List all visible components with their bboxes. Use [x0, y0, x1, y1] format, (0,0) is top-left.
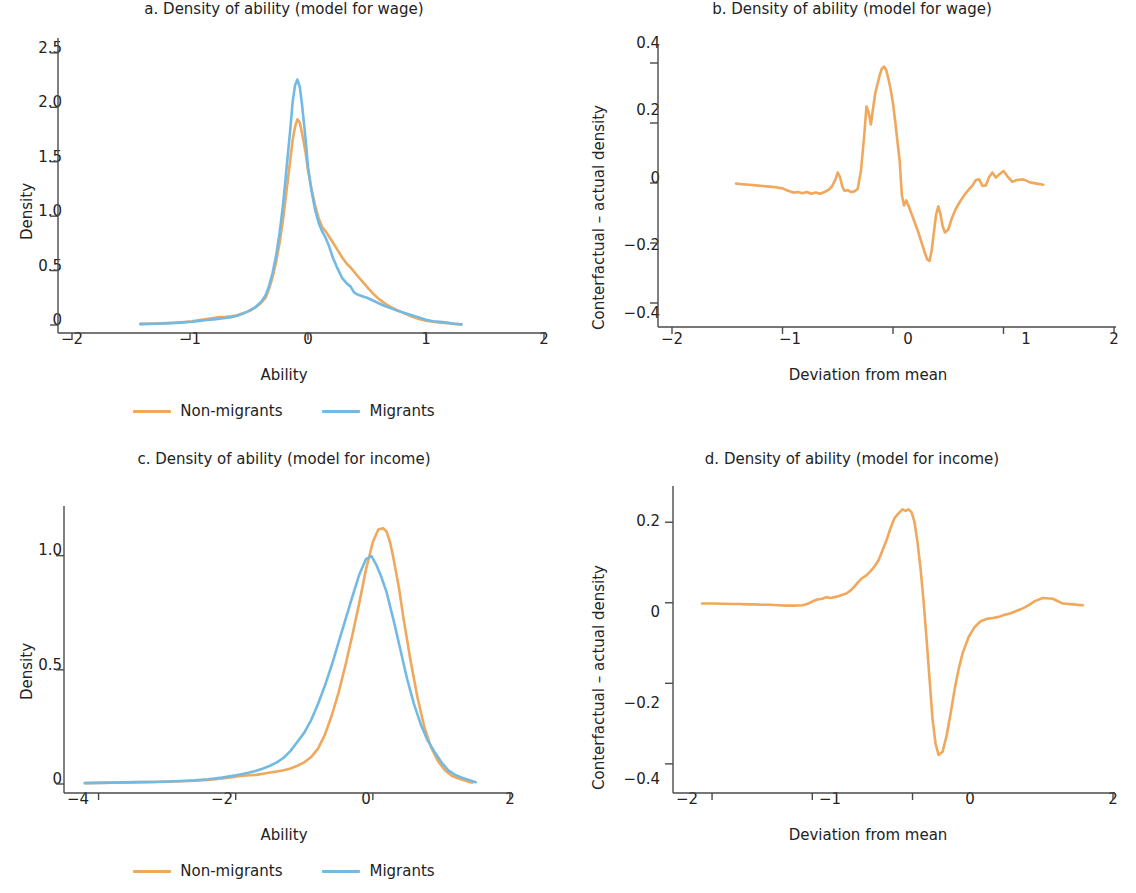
panel-b-x-axis-title: Deviation from mean — [608, 366, 1128, 384]
legend-swatch-non-migrants — [133, 410, 171, 413]
legend-item-migrants[interactable]: Migrants — [322, 402, 434, 420]
figure-container: a. Density of ability (model for wage) D… — [0, 0, 1136, 893]
legend-item-non-migrants[interactable]: Non-migrants — [133, 862, 282, 880]
legend-swatch-migrants — [322, 410, 360, 413]
a-series-0 — [140, 119, 461, 324]
d-series-0 — [702, 509, 1083, 755]
legend-item-migrants[interactable]: Migrants — [322, 862, 434, 880]
legend-label-non-migrants: Non-migrants — [180, 862, 282, 880]
panel-c-legend: Non-migrants Migrants — [0, 862, 568, 880]
panel-a: a. Density of ability (model for wage) D… — [0, 0, 568, 440]
c-series-1 — [85, 556, 476, 783]
panel-c-x-axis-title: Ability — [0, 826, 568, 844]
panel-c: c. Density of ability (model for income)… — [0, 450, 568, 893]
panel-d: d. Density of ability (model for income)… — [568, 450, 1136, 893]
c-series-0 — [85, 528, 472, 783]
legend-label-migrants: Migrants — [369, 862, 434, 880]
panel-b-plot — [568, 0, 1136, 360]
panel-c-plot — [0, 450, 568, 820]
panel-d-plot — [568, 450, 1136, 820]
panel-a-plot — [0, 0, 568, 360]
panel-d-x-axis-title: Deviation from mean — [608, 826, 1128, 844]
panel-a-legend: Non-migrants Migrants — [0, 402, 568, 420]
a-series-1 — [140, 80, 461, 325]
legend-item-non-migrants[interactable]: Non-migrants — [133, 402, 282, 420]
legend-swatch-migrants — [322, 870, 360, 873]
panel-a-x-axis-title: Ability — [0, 366, 568, 384]
b-series-0 — [736, 67, 1043, 261]
legend-label-migrants: Migrants — [369, 402, 434, 420]
panel-b: b. Density of ability (model for wage) C… — [568, 0, 1136, 440]
legend-label-non-migrants: Non-migrants — [180, 402, 282, 420]
legend-swatch-non-migrants — [133, 870, 171, 873]
